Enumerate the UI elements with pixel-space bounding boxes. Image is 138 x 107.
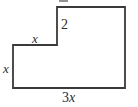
geometry-figure: x x 2 3x: [0, 0, 138, 107]
side-label-notch-2: 2: [61, 18, 68, 32]
side-label-bottom-coefficient: 3: [62, 90, 69, 105]
side-label-bottom-3x: 3x: [62, 91, 75, 105]
side-label-top-left-x: x: [32, 32, 38, 45]
clipped-mark-artifact: [59, 0, 68, 2]
side-label-bottom-variable: x: [69, 90, 75, 105]
side-label-left-x: x: [3, 62, 9, 75]
